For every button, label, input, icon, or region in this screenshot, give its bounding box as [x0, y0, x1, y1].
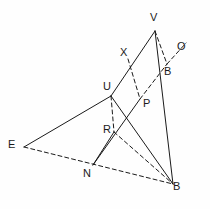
edge-U-E: [24, 96, 111, 147]
edge-X-P: [128, 59, 140, 99]
vertex-label-n: N: [83, 168, 91, 179]
edge-P-B1: [140, 64, 167, 99]
vertex-label-r: R: [103, 124, 111, 135]
vertex-label-x: X: [120, 47, 127, 58]
vertex-label-e: E: [8, 139, 15, 150]
vertex-label-p: P: [143, 98, 150, 109]
edge-V-B2: [155, 31, 173, 184]
vertex-label-b1: B: [164, 66, 171, 77]
vertex-label-o: O: [177, 41, 186, 52]
geometry-diagram: VXOBUPRENB: [0, 0, 210, 209]
edge-V-U: [111, 31, 155, 96]
vertex-label-v: V: [150, 12, 157, 23]
vertex-label-u: U: [103, 81, 111, 92]
edge-R-N: [93, 132, 114, 165]
edge-P-N: [93, 99, 140, 165]
geometry-canvas: [0, 0, 210, 209]
vertex-label-b2: B: [173, 181, 180, 192]
edge-layer: [24, 31, 186, 184]
edge-U-R: [111, 96, 114, 132]
